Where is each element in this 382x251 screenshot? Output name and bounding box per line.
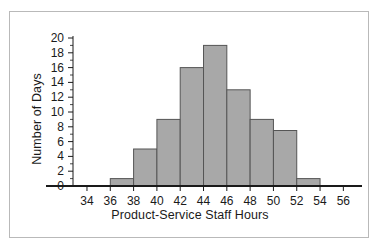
histogram-bar: [204, 45, 227, 186]
histogram-plot: 02468101214161820 3436384042444648505254…: [10, 12, 370, 239]
histogram-bar: [273, 131, 296, 187]
histogram-bar: [250, 119, 273, 186]
histogram-bar: [227, 90, 250, 186]
histogram-bar: [297, 179, 320, 186]
x-axis-title: Product-Service Staff Hours: [10, 208, 370, 222]
histogram-bar: [110, 179, 133, 186]
y-axis-title: Number of Days: [30, 39, 44, 199]
bars-group: [110, 45, 320, 186]
histogram-bar: [157, 119, 180, 186]
histogram-bar: [180, 68, 203, 186]
figure-frame: 02468101214161820 3436384042444648505254…: [9, 11, 369, 238]
histogram-bar: [134, 149, 157, 186]
x-axis-tick-label: 56: [328, 194, 358, 208]
